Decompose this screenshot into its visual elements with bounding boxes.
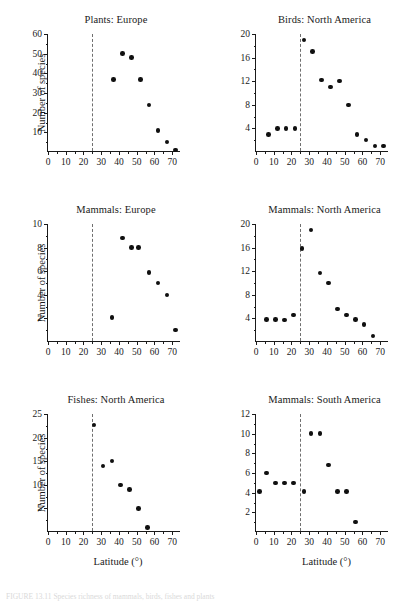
x-tick-minor (283, 531, 284, 534)
y-tick-minor (254, 424, 257, 425)
x-tick (66, 341, 67, 345)
x-tick-minor (92, 151, 93, 154)
x-tick (274, 151, 275, 155)
y-tick-minor (254, 307, 257, 308)
y-tick (252, 295, 256, 296)
x-tick-minor (318, 151, 319, 154)
y-tick-minor (254, 522, 257, 523)
data-point (353, 317, 358, 322)
x-tick (172, 531, 173, 535)
x-tick-label: 0 (254, 347, 259, 357)
data-point (309, 228, 314, 233)
data-point (111, 77, 116, 82)
y-tick-label: 8 (245, 100, 250, 110)
data-point (302, 489, 307, 494)
x-tick-label: 10 (61, 347, 71, 357)
y-tick-label: 6 (245, 468, 250, 478)
x-tick-label: 0 (254, 157, 259, 167)
y-tick-minor (254, 503, 257, 504)
data-point (326, 463, 331, 468)
y-tick-minor (254, 463, 257, 464)
y-tick-label: 16 (241, 243, 251, 253)
y-tick-label: 5 (37, 503, 42, 513)
y-tick (252, 248, 256, 249)
x-tick-label: 70 (375, 157, 385, 167)
x-tick (137, 531, 138, 535)
data-point (282, 481, 287, 486)
figure-caption: FIGURE 13.11 Species richness of mammals… (6, 592, 411, 601)
x-tick-minor (128, 151, 129, 154)
x-tick (345, 531, 346, 535)
chart-panel: Birds: North America48121620010203040506… (208, 0, 417, 190)
y-tick-minor (46, 64, 49, 65)
data-point (118, 483, 123, 488)
y-tick-label: 4 (245, 313, 250, 323)
y-tick (252, 105, 256, 106)
x-tick-label: 40 (322, 537, 332, 547)
x-tick (83, 531, 84, 535)
y-tick (44, 295, 48, 296)
data-point (335, 489, 340, 494)
x-tick (345, 151, 346, 155)
x-tick (291, 531, 292, 535)
x-tick (380, 151, 381, 155)
x-tick (101, 531, 102, 535)
data-point (257, 489, 262, 494)
y-tick-label: 8 (37, 243, 42, 253)
y-tick (44, 132, 48, 133)
y-tick-label: 4 (37, 290, 42, 300)
x-tick-label: 60 (358, 347, 368, 357)
x-tick-minor (336, 341, 337, 344)
y-tick-label: 20 (241, 29, 251, 39)
x-tick-minor (75, 151, 76, 154)
x-tick (101, 151, 102, 155)
panel-title: Plants: Europe (0, 14, 208, 25)
y-tick (44, 34, 48, 35)
y-tick (44, 271, 48, 272)
data-point (156, 128, 161, 133)
x-tick-label: 10 (269, 347, 279, 357)
x-tick-label: 40 (114, 347, 124, 357)
x-tick-minor (92, 531, 93, 534)
x-tick-minor (300, 341, 301, 344)
x-tick-label: 20 (287, 347, 297, 357)
y-tick-minor (46, 142, 49, 143)
data-point (165, 140, 170, 145)
y-tick-label: 2 (37, 313, 42, 323)
x-tick-label: 30 (304, 347, 314, 357)
x-tick-label: 70 (375, 537, 385, 547)
x-tick-label: 20 (287, 157, 297, 167)
y-tick-minor (46, 307, 49, 308)
x-tick (327, 151, 328, 155)
y-tick (252, 81, 256, 82)
plot-area: 102030405060010203040506070 (47, 34, 180, 152)
y-tick (252, 493, 256, 494)
y-tick-minor (254, 330, 257, 331)
data-point (371, 334, 376, 339)
y-tick-label: 15 (33, 456, 43, 466)
x-tick-label: 30 (96, 347, 106, 357)
x-tick-minor (146, 341, 147, 344)
data-point (319, 78, 324, 83)
x-tick-label: 40 (114, 537, 124, 547)
y-tick-minor (46, 497, 49, 498)
x-tick-label: 60 (150, 537, 160, 547)
data-point (291, 481, 296, 486)
y-tick (44, 73, 48, 74)
x-tick-minor (163, 341, 164, 344)
x-tick-minor (146, 531, 147, 534)
data-point (129, 245, 134, 250)
panel-title: Mammals: North America (208, 204, 417, 215)
data-point (264, 471, 269, 476)
x-tick (309, 151, 310, 155)
y-tick-minor (46, 123, 49, 124)
data-point (353, 520, 358, 525)
data-point (101, 464, 106, 469)
x-tick (66, 531, 67, 535)
data-point (381, 144, 386, 149)
chart-panel: Mammals: South America246810120102030405… (208, 380, 417, 575)
y-tick-minor (46, 520, 49, 521)
data-point (293, 126, 298, 131)
y-tick-label: 50 (33, 49, 43, 59)
x-axis-label: Latitude (°) (0, 556, 208, 567)
